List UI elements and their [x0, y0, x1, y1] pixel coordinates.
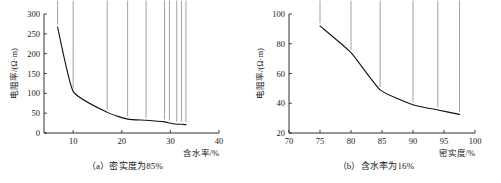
- y-tick-label: 200: [27, 49, 40, 59]
- y-tick-label: 50: [32, 108, 41, 118]
- x-axis-title: 含水率/%: [183, 148, 219, 158]
- chart-b-caption: （b）含水率为16%: [251, 160, 501, 172]
- chart-b-plot: 20406080100707580859095100电阻率/(Ω·m)密实度/%: [251, 0, 501, 160]
- x-tick-label: 100: [469, 136, 482, 146]
- y-axis-title: 电阻率/(Ω·m): [255, 48, 265, 99]
- x-tick-label: 85: [378, 136, 387, 146]
- y-tick-label: 300: [27, 9, 40, 19]
- y-tick-label: 40: [277, 98, 286, 108]
- x-tick-label: 80: [347, 136, 356, 146]
- axis-spines: [44, 14, 219, 133]
- y-tick-label: 60: [277, 69, 286, 79]
- chart-a-caption: （a）密实度为85%: [0, 160, 250, 172]
- x-axis-title: 密实度/%: [439, 148, 475, 158]
- y-axis-title: 电阻率/(Ω·m): [9, 48, 19, 99]
- x-tick-label: 90: [409, 136, 418, 146]
- chart-panel-b: 20406080100707580859095100电阻率/(Ω·m)密实度/%…: [251, 0, 501, 183]
- y-tick-label: 20: [277, 128, 286, 138]
- figure-two-panel-resistivity: 05010015020025030010203040电阻率/(Ω·m)含水率/%…: [0, 0, 501, 183]
- x-tick-label: 95: [440, 136, 449, 146]
- x-tick-label: 20: [118, 136, 127, 146]
- x-tick-label: 75: [316, 136, 325, 146]
- chart-a-plot: 05010015020025030010203040电阻率/(Ω·m)含水率/%: [0, 0, 250, 160]
- x-tick-label: 30: [166, 136, 175, 146]
- chart-panel-a: 05010015020025030010203040电阻率/(Ω·m)含水率/%…: [0, 0, 250, 183]
- y-tick-label: 100: [272, 9, 285, 19]
- y-tick-label: 80: [277, 39, 286, 49]
- y-tick-label: 0: [36, 128, 40, 138]
- series-line: [320, 26, 460, 115]
- axis-spines: [289, 14, 475, 133]
- y-tick-label: 100: [27, 88, 40, 98]
- x-tick-label: 70: [285, 136, 294, 146]
- series-line: [58, 27, 186, 125]
- y-tick-label: 250: [27, 29, 40, 39]
- x-tick-label: 10: [69, 136, 78, 146]
- x-tick-label: 40: [215, 136, 224, 146]
- y-tick-label: 150: [27, 69, 40, 79]
